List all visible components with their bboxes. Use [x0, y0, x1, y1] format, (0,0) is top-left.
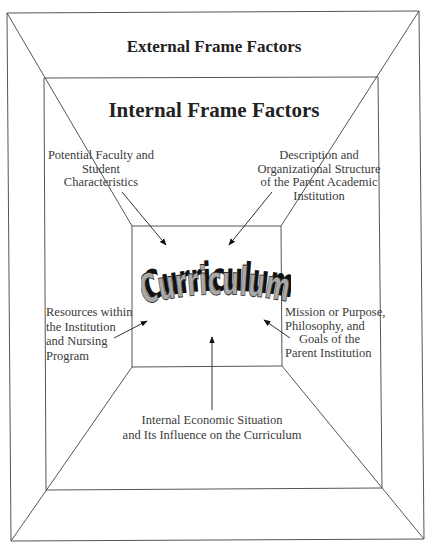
factor-faculty-student: Potential Faculty and Student Characteri…	[46, 149, 156, 190]
internal-frame-title: Internal Frame Factors	[0, 98, 428, 123]
external-frame-title: External Frame Factors	[0, 37, 428, 57]
factor-economic: Internal Economic Situation and Its Infl…	[112, 413, 312, 443]
factor-org-structure: Description and Organizational Structure…	[253, 149, 385, 203]
arrow-faculty	[122, 192, 166, 245]
factor-mission: Mission or Purpose, Philosophy, and Goal…	[285, 306, 385, 360]
curriculum-wordart: Curriculum Curriculum	[141, 258, 291, 314]
factor-resources: Resources within the Institution and Nur…	[46, 305, 132, 363]
